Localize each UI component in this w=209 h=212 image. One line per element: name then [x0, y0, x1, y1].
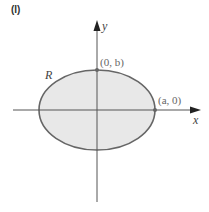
point-a-0-marker: [153, 108, 157, 112]
x-axis-label: x: [192, 113, 199, 127]
point-a-0-label: (a, 0): [158, 94, 182, 107]
region-label: R: [44, 68, 53, 82]
point-0-b-marker: [95, 68, 99, 72]
point-0-b-label: (0, b): [100, 56, 124, 69]
y-axis-arrow-icon: [94, 20, 101, 31]
ellipse-diagram: y x R (0, b) (a, 0): [0, 0, 209, 212]
y-axis-label: y: [101, 19, 108, 33]
